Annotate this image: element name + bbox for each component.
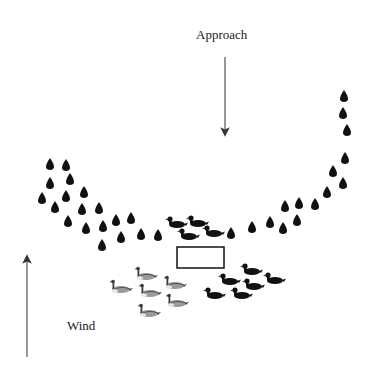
wind-label: Wind (67, 318, 95, 334)
teardrop-decoy-icon (46, 158, 54, 170)
black-duck-decoy-icon (263, 272, 286, 284)
teardrop-decoy-icon (117, 231, 125, 243)
teardrop-decoy-icon (64, 215, 72, 227)
teardrop-decoy-icon (38, 192, 46, 204)
teardrop-decoy-icon (339, 177, 347, 189)
teardrop-decoy-icon (66, 173, 74, 185)
black-duck-decoy-icon (186, 215, 209, 227)
teardrop-decoy-icon (293, 214, 301, 226)
black-duck-decoy-icon (203, 287, 226, 299)
goose-decoy-icon (166, 294, 190, 307)
teardrop-decoy-icon (281, 200, 289, 212)
goose-decoy-icon (135, 267, 159, 280)
teardrop-decoy-icon (51, 201, 59, 213)
teardrop-decoy-icon (340, 90, 348, 102)
teardrop-decoys (38, 90, 351, 251)
goose-decoy-icon (110, 280, 134, 293)
teardrop-decoy-icon (127, 212, 135, 224)
diagram-canvas (0, 0, 370, 376)
approach-label: Approach (196, 27, 247, 43)
teardrop-decoy-icon (329, 165, 337, 177)
teardrop-decoy-icon (341, 152, 349, 164)
teardrop-decoy-icon (82, 222, 90, 234)
teardrop-decoy-icon (279, 222, 287, 234)
teardrop-decoy-icon (99, 220, 107, 232)
teardrop-decoy-icon (227, 227, 235, 239)
teardrop-decoy-icon (154, 229, 162, 241)
decoy-spread-diagram: Approach Wind (0, 0, 370, 376)
teardrop-decoy-icon (266, 216, 274, 228)
black-duck-decoy-icon (177, 228, 200, 240)
black-duck-decoy-icon (240, 263, 263, 275)
goose-decoy-icon (139, 284, 163, 297)
teardrop-decoy-icon (80, 186, 88, 198)
blind-rectangle-shape (177, 247, 224, 268)
black-duck-decoy-icon (165, 216, 188, 228)
teardrop-decoy-icon (339, 107, 347, 119)
teardrop-decoy-icon (323, 186, 331, 198)
teardrop-decoy-icon (112, 214, 120, 226)
teardrop-decoy-icon (78, 203, 86, 215)
blind-rectangle (177, 247, 224, 268)
goose-decoy-icon (138, 304, 162, 317)
goose-decoy-icon (164, 276, 188, 289)
black-duck-decoy-icon (202, 225, 225, 237)
black-duck-decoy-icon (218, 273, 241, 285)
teardrop-decoy-icon (311, 198, 319, 210)
teardrop-decoy-icon (248, 221, 256, 233)
teardrop-decoy-icon (62, 190, 70, 202)
teardrop-decoy-icon (137, 228, 145, 240)
teardrop-decoy-icon (46, 177, 54, 189)
black-duck-decoy-icon (242, 278, 265, 290)
goose-decoys (110, 267, 190, 317)
teardrop-decoy-icon (295, 197, 303, 209)
teardrop-decoy-icon (343, 124, 351, 136)
teardrop-decoy-icon (62, 159, 70, 171)
teardrop-decoy-icon (95, 202, 103, 214)
teardrop-decoy-icon (98, 239, 106, 251)
